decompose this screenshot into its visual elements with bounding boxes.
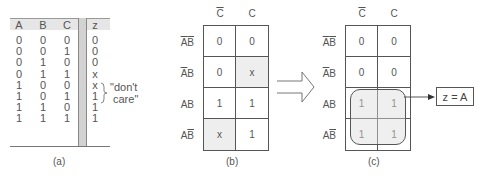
kmap-cell: x [204,119,236,150]
table-cell: 0 [37,34,49,46]
caption-a: (a) [53,156,65,167]
kmap-cell: 1 [204,88,236,119]
table-cell: 0 [61,34,73,46]
kmap-cell: 0 [204,57,236,88]
row-label-abar-bbar: AB [170,37,194,48]
col-label-c-bar: C [210,8,230,19]
table-cell: 1 [89,112,101,124]
brace-icon [100,82,108,104]
caption-c: (c) [368,156,380,167]
col-label-c: C [242,8,262,19]
kmap-cell: 0 [378,57,410,88]
table-cell: 1 [13,90,25,102]
kmap-b-grid: 000x11x1 [203,25,269,151]
row-label-abar-b: AB [312,68,336,79]
row-label-abar-bbar: AB [312,37,336,48]
table-cell: 1 [13,101,25,113]
table-cell: 0 [13,34,25,46]
table-cell: 0 [13,45,25,57]
table-cell: 0 [37,90,49,102]
col-label-c: C [384,8,404,19]
dont-care-label-2: care" [113,94,138,105]
table-cell: 1 [37,112,49,124]
table-cell: 1 [37,68,49,80]
table-cell: 1 [61,90,73,102]
row-label-a-bbar: AB [170,130,194,141]
table-cell: 1 [61,112,73,124]
kmap-cell: 0 [346,57,378,88]
table-cell: x [89,68,101,80]
table-cell: 1 [61,68,73,80]
header-z: z [89,19,101,31]
table-cell: 0 [37,45,49,57]
kmap-cell: 0 [236,26,268,57]
kmap-cell: 0 [204,26,236,57]
header-b: B [37,19,49,31]
table-cell: 1 [13,112,25,124]
table-cell: 0 [13,56,25,68]
table-cell: 1 [13,79,25,91]
table-cell: 0 [37,79,49,91]
table-cell: 1 [37,101,49,113]
table-cell: 0 [89,56,101,68]
transform-arrow-icon [276,70,316,104]
kmap-cell: 0 [346,26,378,57]
table-cell: 1 [37,56,49,68]
table-cell: 0 [61,79,73,91]
header-c: C [61,19,73,31]
col-label-c-bar: C [352,8,372,19]
result-arrow-icon [404,93,436,101]
truth-table-separator-bar [78,18,87,146]
truth-table-bottom-rule [10,146,110,147]
table-cell: 1 [61,45,73,57]
table-cell: 0 [61,101,73,113]
kmap-cell: x [236,57,268,88]
kmap-cell: 0 [378,26,410,57]
row-label-a-bbar: AB [312,130,336,141]
table-cell: 0 [13,68,25,80]
row-label-a-b: AB [312,99,336,110]
kmap-cell: 1 [236,119,268,150]
result-box: z = A [436,87,474,106]
group-loop [350,89,406,145]
dont-care-label-1: "don't [110,82,137,93]
caption-b: (b) [226,156,238,167]
table-cell: 0 [89,34,101,46]
row-label-abar-b: AB [170,68,194,79]
table-cell: 0 [89,45,101,57]
kmap-cell: 1 [236,88,268,119]
header-a: A [13,19,25,31]
table-cell: 0 [61,56,73,68]
row-label-a-b: AB [170,99,194,110]
